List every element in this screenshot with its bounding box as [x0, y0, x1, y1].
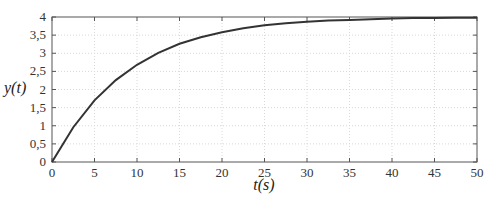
x-tick-label: 5 — [91, 165, 98, 180]
y-tick-label: 0 — [40, 154, 47, 169]
x-tick-label: 40 — [386, 165, 399, 180]
x-tick-label: 20 — [216, 165, 229, 180]
x-tick-label: 0 — [49, 165, 56, 180]
y-tick-label: 2 — [40, 82, 47, 97]
x-axis-label: t(s) — [253, 176, 274, 194]
x-tick-label: 50 — [471, 165, 484, 180]
y-tick-label: 2,5 — [30, 63, 46, 78]
chart: 05101520253035404550 00,511,522,533,54 t… — [0, 0, 491, 203]
x-ticks: 05101520253035404550 — [49, 17, 484, 180]
x-tick-label: 45 — [428, 165, 441, 180]
y-tick-label: 3 — [40, 45, 47, 60]
y-tick-label: 3,5 — [30, 27, 46, 42]
y-tick-label: 1,5 — [30, 100, 46, 115]
grid — [52, 17, 477, 162]
y-tick-label: 0,5 — [30, 136, 46, 151]
y-axis-label: y(t) — [2, 79, 26, 97]
x-tick-label: 15 — [173, 165, 186, 180]
x-tick-label: 35 — [343, 165, 356, 180]
x-tick-label: 30 — [301, 165, 314, 180]
y-tick-label: 1 — [40, 118, 47, 133]
y-tick-label: 4 — [40, 9, 47, 24]
x-tick-label: 10 — [131, 165, 144, 180]
